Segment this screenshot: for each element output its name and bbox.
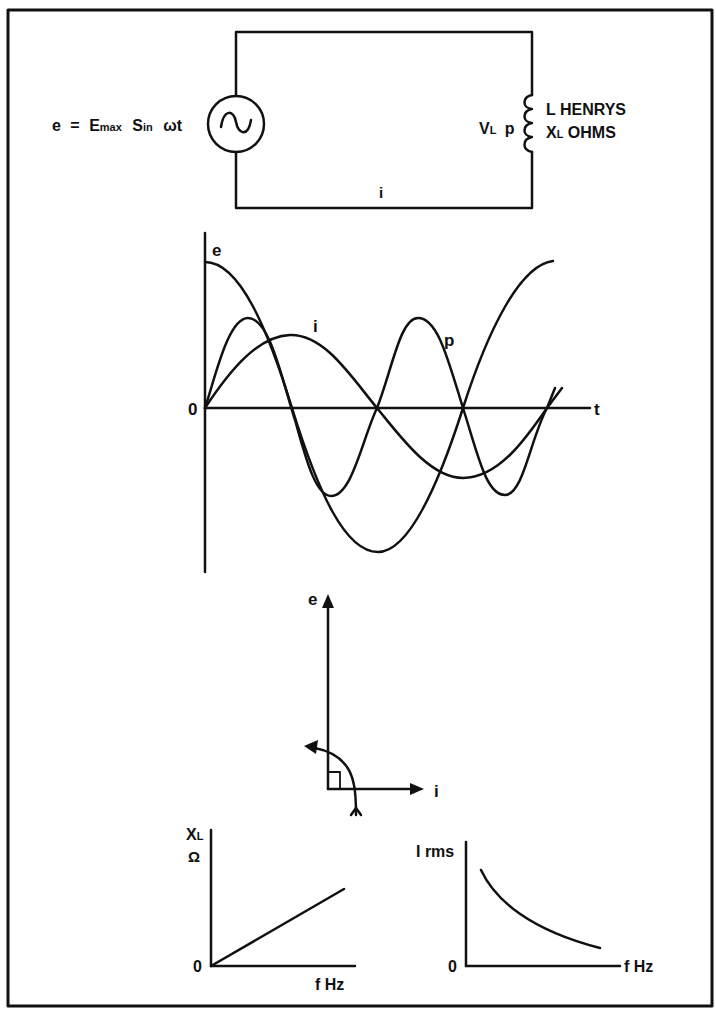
source-equation: e = Emax Sin ωt <box>52 117 183 134</box>
ac-source-icon <box>208 96 264 152</box>
waveform-label-e: e <box>212 241 221 260</box>
current-phasor-arrowhead-icon <box>410 783 424 795</box>
inductor-coil-icon <box>525 95 533 152</box>
circuit-current-label: i <box>379 184 383 201</box>
reactance-y-unit: Ω <box>188 848 200 865</box>
current-origin-label: 0 <box>448 958 457 975</box>
current-vs-frequency-chart: I rms 0 f Hz <box>416 842 653 975</box>
waveform-t-label: t <box>594 400 600 419</box>
right-angle-marker-icon <box>328 772 340 789</box>
phasor-label-i: i <box>434 782 439 801</box>
inductance-label: L HENRYS <box>546 101 626 118</box>
rotation-arc <box>315 748 356 815</box>
rotation-arrowhead-icon <box>304 740 318 754</box>
reactance-vs-frequency-chart: XL Ω 0 f Hz <box>186 826 355 993</box>
reactance-label: XL OHMS <box>546 124 616 141</box>
reactance-y-label: XL <box>186 826 204 843</box>
reactance-x-label: f Hz <box>315 976 344 993</box>
waveform-label-i: i <box>313 317 318 336</box>
waveform-chart: e i p 0 t <box>188 233 600 572</box>
waveform-label-p: p <box>444 331 454 350</box>
reactance-line <box>211 889 344 966</box>
voltage-curve-e <box>205 261 553 552</box>
diagram-canvas: e = Emax Sin ωt VL p L HENRYS XL OHMS i <box>0 0 716 1011</box>
inductor-voltage-power-label: VL p <box>479 120 515 137</box>
circuit-wire-top <box>236 32 532 96</box>
circuit-wire-bottom <box>236 152 532 208</box>
phasor-label-e: e <box>308 590 317 609</box>
voltage-phasor-arrowhead-icon <box>322 594 334 608</box>
circuit-diagram: e = Emax Sin ωt VL p L HENRYS XL OHMS i <box>52 32 626 208</box>
current-y-label: I rms <box>416 843 454 860</box>
outer-frame <box>8 10 712 1006</box>
waveform-origin-label: 0 <box>188 400 197 419</box>
phasor-diagram: e i <box>304 590 439 815</box>
current-curve-i <box>205 335 562 478</box>
current-curve <box>481 870 600 948</box>
current-x-label: f Hz <box>624 958 653 975</box>
reactance-origin-label: 0 <box>193 958 202 975</box>
